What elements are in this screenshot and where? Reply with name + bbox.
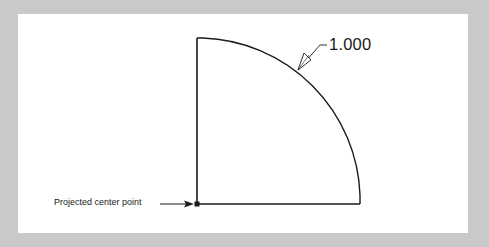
arc-edge (197, 38, 360, 204)
center-point-label: Projected center point (54, 197, 142, 207)
center-point-marker (195, 202, 200, 207)
radius-dimension-text: 1.000 (329, 35, 371, 54)
sketch-canvas (0, 0, 489, 247)
